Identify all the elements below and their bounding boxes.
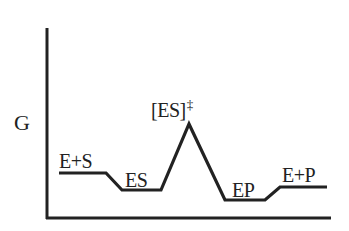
ep-complex-label: EP [232, 180, 254, 200]
reactants-label: E+S [59, 151, 92, 171]
transition-state-main: [ES] [151, 99, 186, 121]
reaction-pathway-curve [59, 124, 327, 200]
free-energy-diagram: G E+S ES [ES]‡ EP E+P [0, 0, 349, 231]
es-complex-label: ES [125, 170, 147, 190]
transition-state-label: [ES]‡ [151, 100, 193, 120]
products-label: E+P [282, 165, 315, 185]
y-axis-label: G [14, 112, 29, 134]
double-dagger-icon: ‡ [187, 97, 193, 112]
